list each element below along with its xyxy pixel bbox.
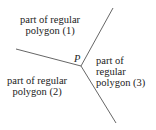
region-3-line3: polygon (3) (96, 77, 145, 88)
region-2-label: part of regular polygon (2) (7, 75, 67, 97)
region-2-line1: part of regular (7, 75, 67, 86)
region-2-line2: polygon (2) (7, 86, 67, 97)
region-1-line1: part of regular (20, 14, 80, 25)
region-3-line1: part of (96, 55, 145, 66)
edge-left (16, 49, 81, 66)
region-3-label: part of regular polygon (3) (96, 55, 145, 88)
region-3-line2: regular (96, 66, 145, 77)
region-1-line2: polygon (1) (20, 25, 80, 36)
vertex-label-p: P (74, 53, 80, 64)
region-1-label: part of regular polygon (1) (20, 14, 80, 36)
